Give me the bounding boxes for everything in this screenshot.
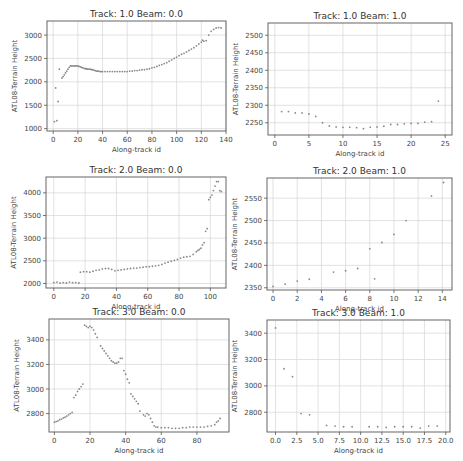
axes-frame: [268, 23, 452, 135]
data-point: [139, 410, 141, 412]
x-tick-label: 14: [438, 295, 447, 303]
y-tick-label: 3000: [26, 386, 44, 394]
data-point: [87, 327, 89, 329]
data-point: [109, 71, 111, 73]
data-point: [207, 426, 209, 428]
y-tick-label: 2500: [244, 217, 262, 225]
x-tick-label: 80: [147, 136, 156, 144]
data-point: [167, 261, 169, 263]
x-tick-label: 20: [86, 437, 95, 445]
data-point: [369, 126, 371, 128]
data-point: [208, 199, 210, 201]
data-point: [130, 268, 132, 270]
x-tick-label: 10.0: [353, 437, 369, 445]
x-tick-label: 2: [295, 295, 299, 303]
data-point: [200, 426, 202, 428]
x-tick-label: 10: [339, 140, 348, 148]
data-point: [65, 282, 67, 284]
axes-frame: [47, 21, 226, 131]
data-point: [205, 40, 207, 42]
data-point: [121, 357, 123, 359]
data-point: [53, 421, 55, 423]
x-tick-label: 100: [204, 293, 217, 301]
data-point: [281, 111, 283, 113]
y-tick-label: 2250: [245, 119, 263, 127]
data-point: [210, 30, 212, 32]
data-point: [80, 386, 82, 388]
data-point: [171, 59, 173, 61]
data-point: [123, 370, 125, 372]
data-point: [211, 194, 213, 196]
data-point: [78, 388, 80, 390]
data-point: [349, 126, 351, 128]
x-tick-label: 2.5: [291, 437, 302, 445]
data-point: [148, 414, 150, 416]
x-tick-label: 20: [73, 136, 82, 144]
data-point: [345, 270, 347, 272]
subplot-title: Track: 1.0 Beam: 1.0: [313, 11, 407, 21]
subplot-title: Track: 3.0 Beam: 0.0: [92, 307, 186, 317]
data-point: [102, 71, 104, 73]
data-point: [125, 373, 127, 375]
data-point: [114, 71, 116, 73]
data-point: [107, 355, 109, 357]
data-point: [143, 414, 145, 416]
data-point: [132, 395, 134, 397]
data-point: [385, 426, 387, 428]
y-axis-label: ATL08-Terrain Height: [10, 196, 18, 269]
data-point: [59, 282, 61, 284]
data-point: [308, 113, 310, 115]
data-point: [67, 68, 69, 70]
data-point: [95, 269, 97, 271]
data-point: [156, 66, 158, 68]
data-point: [203, 40, 205, 42]
data-point: [98, 269, 100, 271]
data-point: [134, 398, 136, 400]
data-point: [100, 345, 102, 347]
data-point: [83, 271, 85, 273]
data-point: [155, 426, 157, 428]
data-point: [161, 64, 163, 66]
data-point: [217, 181, 219, 183]
data-point: [216, 181, 218, 183]
data-point: [390, 124, 392, 126]
data-point: [135, 400, 137, 402]
subplot-title: Track: 1.0 Beam: 0.0: [89, 9, 183, 19]
data-point: [181, 53, 183, 55]
x-tick-label: 10: [389, 295, 398, 303]
x-tick-label: 0: [273, 140, 277, 148]
data-point: [397, 124, 399, 126]
data-point: [75, 282, 77, 284]
x-tick-label: 80: [192, 437, 201, 445]
data-point: [86, 271, 88, 273]
data-point: [168, 60, 170, 62]
data-point: [62, 76, 64, 78]
data-point: [424, 121, 426, 123]
x-tick-label: 25: [441, 140, 450, 148]
data-point: [173, 259, 175, 261]
data-point: [134, 70, 136, 72]
data-point: [428, 425, 430, 427]
x-tick-label: 20: [81, 293, 90, 301]
y-tick-label: 3400: [244, 330, 262, 338]
data-point: [130, 393, 132, 395]
data-point: [61, 418, 63, 420]
data-point: [203, 426, 205, 428]
subplot-title: Track: 3.0 Beam: 1.0: [311, 308, 405, 318]
data-point: [71, 411, 73, 413]
data-point: [272, 286, 274, 288]
data-point: [196, 426, 198, 428]
data-point: [186, 51, 188, 53]
x-tick-label: 4: [319, 295, 324, 303]
data-point: [53, 282, 55, 284]
data-point: [218, 27, 220, 29]
data-point: [200, 41, 202, 43]
y-tick-label: 3000: [23, 235, 41, 243]
data-point: [219, 418, 221, 420]
data-point: [206, 228, 208, 230]
data-point: [188, 50, 190, 52]
data-point: [220, 191, 222, 193]
data-point: [333, 271, 335, 273]
data-point: [123, 269, 125, 271]
data-point: [133, 267, 135, 269]
